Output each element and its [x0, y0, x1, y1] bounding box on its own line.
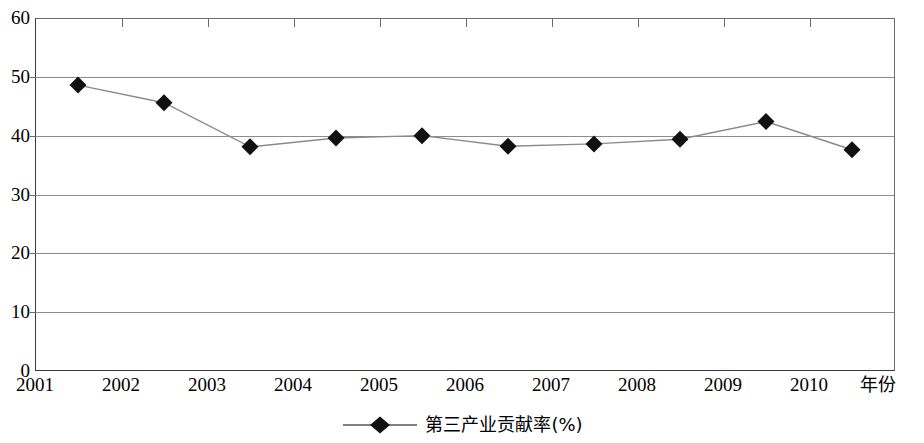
y-axis-tick: [30, 312, 36, 313]
x-axis-tick-label: 2008: [618, 374, 656, 396]
x-axis-tick: [638, 19, 639, 27]
x-axis-tick: [466, 19, 467, 27]
x-axis-tick: [294, 19, 295, 27]
y-axis-tick-label: 10: [11, 302, 30, 321]
y-axis-tick-label: 50: [11, 67, 30, 86]
plot-area: [35, 18, 895, 371]
x-axis-tick: [810, 19, 811, 27]
x-axis-tick-label: 2007: [532, 374, 570, 396]
y-axis-tick-label: 40: [11, 126, 30, 145]
x-axis-tick: [724, 19, 725, 27]
legend-entry: 第三产业贡献率(%): [341, 414, 582, 436]
x-axis-tick-label: 2005: [360, 374, 398, 396]
y-axis-tick: [30, 253, 36, 254]
y-axis-tick-label: 20: [11, 243, 30, 262]
gridline: [36, 195, 894, 196]
y-axis-tick-label: 30: [11, 185, 30, 204]
x-axis-labels: 2001200220032004200520062007200820092010: [0, 374, 924, 400]
x-axis-tick-label: 2004: [274, 374, 312, 396]
y-axis-tick-label: 60: [11, 8, 30, 27]
y-axis-tick: [30, 77, 36, 78]
line-chart: 0102030405060 20012002200320042005200620…: [0, 0, 924, 443]
y-axis-tick: [30, 136, 36, 137]
legend-marker-icon: [341, 415, 419, 435]
gridline: [36, 253, 894, 254]
gridline: [36, 136, 894, 137]
x-axis-tick: [122, 19, 123, 27]
x-axis-tick: [552, 19, 553, 27]
x-axis-tick-label: 2010: [790, 374, 828, 396]
x-axis-title: 年份: [860, 374, 896, 396]
x-axis-tick-label: 2002: [102, 374, 140, 396]
gridline: [36, 312, 894, 313]
gridline: [36, 77, 894, 78]
x-axis-tick-label: 2009: [704, 374, 742, 396]
y-axis-tick: [30, 195, 36, 196]
x-axis-tick-label: 2003: [188, 374, 226, 396]
legend-label: 第三产业贡献率(%): [425, 414, 582, 436]
x-axis-tick-label: 2001: [16, 374, 54, 396]
chart-legend: 第三产业贡献率(%): [0, 406, 924, 443]
x-axis-tick: [380, 19, 381, 27]
x-axis-tick-label: 2006: [446, 374, 484, 396]
x-axis-tick: [208, 19, 209, 27]
